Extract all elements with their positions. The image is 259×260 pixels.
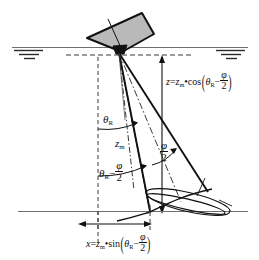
tmhp-fraction: φ2 <box>115 160 123 183</box>
footprint-lower-lobe <box>117 212 150 221</box>
half-phi-den: 2 <box>160 152 168 163</box>
label-zm: zm <box>115 138 125 151</box>
depth-func: cos <box>188 76 201 87</box>
x-fraction: φ2 <box>139 232 147 253</box>
label-theta-minus-half-phi: θR−φ2 <box>99 160 123 183</box>
angle-arc-halfphi-arrow <box>170 148 177 154</box>
formula-depth: z=zm•cos(θR−φ2) <box>166 70 232 91</box>
label-half-phi: φ2 <box>160 140 168 163</box>
label-theta-r: θR <box>103 114 113 127</box>
depth-arrow-top <box>159 55 165 63</box>
tmhp-frac-den: 2 <box>115 172 123 183</box>
x-frac-den: 2 <box>139 243 147 253</box>
x-open-paren: ( <box>121 235 124 254</box>
x-func: sin <box>108 238 120 249</box>
zm-subscript: m <box>119 143 124 150</box>
water-surface-right-icon <box>216 51 245 59</box>
transducer-head <box>113 45 127 54</box>
depth-fraction: φ2 <box>220 70 228 91</box>
theta-r-subscript: R <box>108 119 113 126</box>
half-phi-fraction: φ2 <box>160 140 168 163</box>
depth-frac-den: 2 <box>220 81 228 91</box>
beam-footprint-ellipse <box>144 183 232 221</box>
diagram-canvas <box>0 0 259 260</box>
offset-arrow-right <box>144 221 152 227</box>
offset-arrow-left <box>78 221 86 227</box>
sonar-geometry-figure: θR zm θR−φ2 φ2 z=zm•cos(θR−φ2) x=zm•sin(… <box>0 0 259 260</box>
beam-side-ray <box>119 53 125 120</box>
water-surface-left-icon <box>14 51 43 59</box>
depth-open-paren: ( <box>202 73 205 92</box>
depth-close-paren: ) <box>228 73 231 92</box>
formula-across-track: x=zm•sin(θR−φ2) <box>86 232 151 253</box>
x-close-paren: ) <box>147 235 150 254</box>
